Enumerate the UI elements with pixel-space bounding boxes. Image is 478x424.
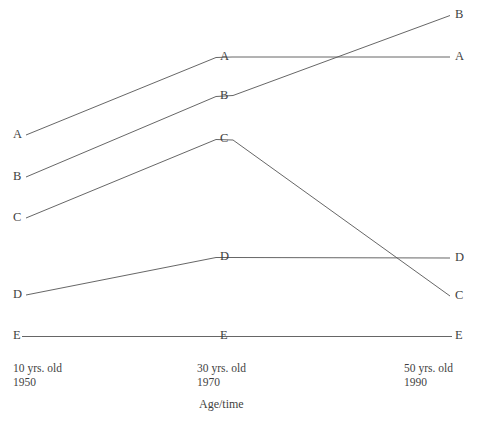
series-endpoint-label-left-c: C [13,211,21,224]
line-chart: A B C D E A B C D E B A D C E 10 yrs. ol… [0,0,478,424]
x-tick-label-2-age: 30 yrs. old [197,362,246,374]
series-endpoint-label-right-b: B [455,8,463,21]
x-tick-label-1: 10 yrs. old 1950 [13,362,62,389]
series-endpoint-label-mid-c: C [220,132,228,145]
series-line-c [26,140,450,297]
x-tick-label-3: 50 yrs. old 1990 [404,362,453,389]
series-endpoint-label-right-d: D [455,251,464,264]
x-tick-label-3-year: 1990 [404,376,453,390]
series-line-b [26,16,450,178]
series-endpoint-label-left-d: D [13,288,22,301]
series-endpoint-label-right-e: E [455,329,463,342]
series-endpoint-label-mid-d: D [220,250,229,263]
series-endpoint-label-right-c: C [455,289,463,302]
series-endpoint-label-left-a: A [13,128,22,141]
x-tick-label-1-year: 1950 [13,376,62,390]
x-axis-title: Age/time [199,398,244,410]
series-line-a [26,57,450,135]
chart-lines-layer [0,0,478,424]
series-endpoint-label-left-e: E [13,329,21,342]
x-tick-label-3-age: 50 yrs. old [404,362,453,374]
series-endpoint-label-mid-e: E [220,329,228,342]
series-endpoint-label-mid-b: B [220,89,228,102]
series-endpoint-label-right-a: A [455,50,464,63]
x-tick-label-2-year: 1970 [197,376,246,390]
x-tick-label-2: 30 yrs. old 1970 [197,362,246,389]
series-line-d [26,258,450,296]
x-tick-label-1-age: 10 yrs. old [13,362,62,374]
series-endpoint-label-left-b: B [13,170,21,183]
series-endpoint-label-mid-a: A [220,50,229,63]
